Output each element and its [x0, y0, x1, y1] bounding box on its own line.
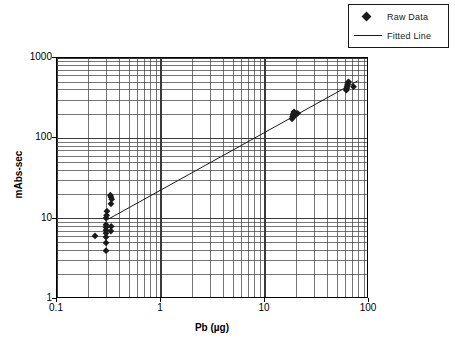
y-tick-mark	[52, 57, 56, 58]
legend-item-fitted-line: Fitted Line	[349, 26, 448, 46]
x-tick-label: 0.1	[36, 303, 76, 313]
fitted-line	[107, 81, 358, 220]
x-tick-label: 10	[244, 303, 284, 313]
chart-legend: Raw Data Fitted Line	[348, 4, 449, 48]
line-swatch-icon	[354, 35, 382, 36]
legend-label-fitted-line: Fitted Line	[387, 31, 431, 41]
x-tick-label: 1	[140, 303, 180, 313]
plot-area	[56, 57, 368, 298]
y-tick-label: 1	[6, 293, 52, 303]
data-point-marker	[104, 208, 111, 215]
x-axis-tick-labels: 0.1110100	[0, 303, 455, 317]
data-point-marker	[103, 247, 110, 254]
y-tick-mark	[52, 137, 56, 138]
x-tick-label: 100	[348, 303, 388, 313]
data-point-marker	[108, 223, 115, 230]
chart-data-layer	[57, 58, 368, 298]
y-tick-label: 1000	[6, 52, 52, 62]
legend-label-raw-data: Raw Data	[387, 12, 428, 22]
data-point-marker	[92, 233, 99, 240]
y-axis-label: mAbs-sec	[13, 115, 24, 235]
x-axis-label: Pb (µg)	[56, 322, 368, 333]
y-tick-mark	[52, 218, 56, 219]
legend-key-fitted-line	[349, 27, 387, 45]
diamond-marker-icon	[362, 12, 372, 22]
y-axis-tick-labels: 1101001000	[0, 0, 52, 343]
legend-key-raw-data	[349, 8, 387, 26]
legend-item-raw-data: Raw Data	[349, 7, 448, 27]
chart-figure: Raw Data Fitted Line 1101001000 0.111010…	[0, 0, 455, 343]
